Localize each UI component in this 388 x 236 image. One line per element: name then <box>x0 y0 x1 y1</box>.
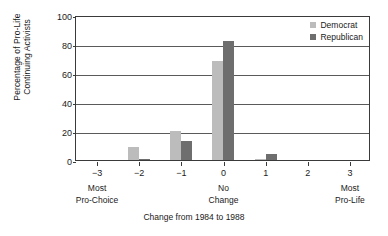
bar-group <box>118 17 160 160</box>
x-tick-label: 1 <box>246 168 286 178</box>
legend-label-democrat: Democrat <box>320 20 357 30</box>
x-tick-label: −1 <box>161 168 201 178</box>
x-tick-sublabel: No Change <box>184 183 264 206</box>
bar-democrat <box>170 131 181 160</box>
chart-legend: Democrat Republican <box>310 20 363 42</box>
x-tick-mark <box>308 162 309 166</box>
x-tick-label: 2 <box>288 168 328 178</box>
x-tick-mark <box>139 162 140 166</box>
x-tick-mark <box>350 162 351 166</box>
y-tick-label: 60 <box>46 71 72 80</box>
bar-republican <box>139 159 150 160</box>
bar-chart-figure: Percentage of Pro-Life Continuing Activi… <box>0 0 388 236</box>
bar-republican <box>266 154 277 160</box>
x-tick-mark <box>266 162 267 166</box>
legend-label-republican: Republican <box>320 32 363 42</box>
x-tick-mark <box>181 162 182 166</box>
bar-republican <box>223 41 234 160</box>
x-tick-label: 3 <box>330 168 370 178</box>
plot-area: 020406080100 −3Most Pro-Choice−2−10No Ch… <box>75 16 370 161</box>
legend-item-democrat: Democrat <box>310 20 363 30</box>
bar-group <box>76 17 118 160</box>
y-axis-title: Percentage of Pro-Life Continuing Activi… <box>2 0 42 137</box>
x-tick-sublabel: Most Pro-Choice <box>57 183 137 206</box>
y-tick-label: 20 <box>46 129 72 138</box>
y-tick-label: 80 <box>46 42 72 51</box>
y-tick-label: 100 <box>46 13 72 22</box>
bar-group <box>202 17 244 160</box>
bar-republican <box>181 141 192 160</box>
y-tick-mark <box>73 162 76 163</box>
bar-democrat <box>212 61 223 160</box>
legend-swatch-democrat <box>310 22 316 28</box>
bar-group <box>160 17 202 160</box>
y-tick-label: 40 <box>46 100 72 109</box>
legend-swatch-republican <box>310 34 316 40</box>
bar-group <box>245 17 287 160</box>
bar-democrat <box>255 159 266 160</box>
x-tick-label: −2 <box>119 168 159 178</box>
x-tick-label: −3 <box>77 168 117 178</box>
legend-item-republican: Republican <box>310 32 363 42</box>
x-tick-mark <box>224 162 225 166</box>
x-tick-mark <box>97 162 98 166</box>
x-tick-sublabel: Most Pro-Life <box>310 183 388 206</box>
x-axis-title: Change from 1984 to 1988 <box>0 212 388 222</box>
bar-democrat <box>128 147 139 160</box>
x-tick-label: 0 <box>204 168 244 178</box>
y-tick-label: 0 <box>46 158 72 167</box>
